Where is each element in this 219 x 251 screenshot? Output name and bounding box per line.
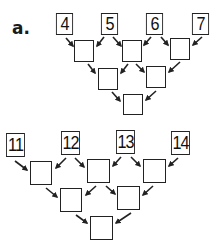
pyramid-a-answer-box-r3-2[interactable] <box>146 66 166 88</box>
pyramid-b-top-box-4: 14 <box>171 131 190 155</box>
pyramid-b-answer-box-r3-2[interactable] <box>117 186 140 210</box>
number-label: 12 <box>62 133 78 154</box>
pyramid-a-answer-box-r2-2[interactable] <box>122 40 142 62</box>
pyramid-a-top-box-2: 5 <box>101 13 118 35</box>
pyramid-a-answer-box-r4-1[interactable] <box>123 94 143 115</box>
pyramid-a-answer-box-r2-1[interactable] <box>74 40 94 62</box>
pyramid-b-top-box-2: 12 <box>61 131 80 155</box>
number-label: 5 <box>105 14 113 35</box>
number-label: 14 <box>172 133 188 154</box>
pyramid-a-top-box-1: 4 <box>56 13 73 35</box>
number-label: 4 <box>60 14 68 35</box>
pyramid-b-top-box-3: 13 <box>116 130 135 154</box>
number-label: 11 <box>8 135 23 156</box>
number-label: 13 <box>117 132 133 153</box>
pyramid-b-answer-box-r3-1[interactable] <box>60 188 82 212</box>
number-label: 6 <box>150 14 158 35</box>
cropped-text-fragment <box>0 246 219 251</box>
pyramid-a-answer-box-r3-1[interactable] <box>98 68 118 90</box>
pyramid-b-answer-box-r2-2[interactable] <box>87 159 110 183</box>
pyramid-b-answer-box-r4-1[interactable] <box>90 216 113 240</box>
pyramid-a-top-box-3: 6 <box>146 13 163 35</box>
number-label: 7 <box>196 14 204 35</box>
problem-a-label: a. <box>12 20 30 37</box>
pyramid-b-answer-box-r2-1[interactable] <box>30 161 52 185</box>
pyramid-a-top-box-4: 7 <box>192 13 209 35</box>
pyramid-b-top-box-1: 11 <box>6 133 25 157</box>
pyramid-a-answer-box-r2-3[interactable] <box>170 38 190 60</box>
pyramid-b-answer-box-r2-3[interactable] <box>143 159 166 183</box>
